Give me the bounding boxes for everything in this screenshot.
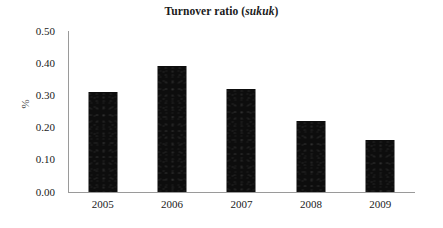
bar-slot [68, 31, 137, 192]
bar-2007 [227, 89, 256, 192]
y-tick-label: 0.50 [36, 26, 55, 37]
y-tick-label: 0.00 [36, 187, 55, 198]
plot-area [68, 31, 415, 193]
x-tick-label: 2006 [137, 198, 206, 211]
chart-title: Turnover ratio (sukuk) [0, 5, 443, 17]
y-tick-label: 0.20 [36, 122, 55, 133]
bar-2006 [158, 66, 187, 192]
x-tick-label: 2008 [276, 198, 345, 211]
bar-2008 [296, 121, 325, 192]
bar-2009 [366, 140, 395, 192]
x-tick-label: 2007 [207, 198, 276, 211]
y-tick-label: 0.40 [36, 58, 55, 69]
bar-slot [276, 31, 345, 192]
chart-title-tail: ) [275, 5, 279, 17]
x-axis-line [68, 192, 415, 193]
bar-slot [137, 31, 206, 192]
bar-slot [346, 31, 415, 192]
y-axis-tick-labels: 0.50 0.40 0.30 0.20 0.10 0.00 [0, 31, 62, 193]
bar-slot [207, 31, 276, 192]
y-tick-label: 0.30 [36, 90, 55, 101]
y-tick-label: 0.10 [36, 154, 55, 165]
x-axis-tick-labels: 2005 2006 2007 2008 2009 [68, 198, 415, 218]
chart-title-text: Turnover ratio ( [164, 5, 245, 17]
chart-title-italic-term: sukuk [245, 5, 274, 17]
bar-2005 [88, 92, 117, 192]
x-tick-label: 2009 [346, 198, 415, 211]
bars-layer [68, 31, 415, 192]
bar-chart: Turnover ratio (sukuk) % 0.50 0.40 0.30 … [0, 0, 443, 228]
x-tick-label: 2005 [68, 198, 137, 211]
